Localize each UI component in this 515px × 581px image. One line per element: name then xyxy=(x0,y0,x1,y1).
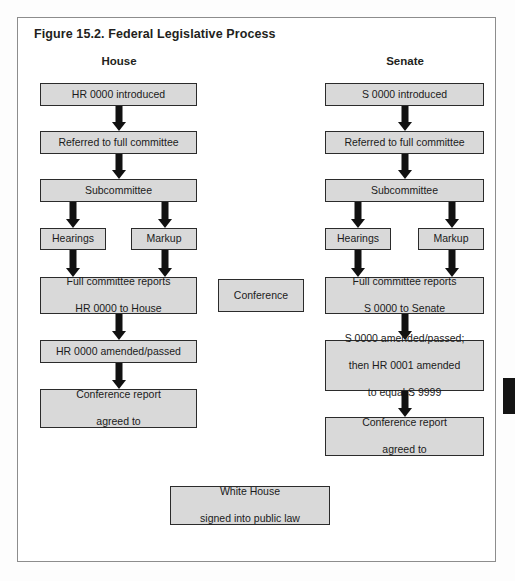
node-house-referred-label: Referred to full committee xyxy=(44,136,193,150)
arrow-senate-subcommittee-to-markup xyxy=(444,202,460,228)
arrow-senate-amended-to-conference-report xyxy=(397,391,413,417)
node-white-house-line1: White House xyxy=(174,485,326,499)
node-senate-markup[interactable]: Markup xyxy=(418,228,484,250)
node-house-referred[interactable]: Referred to full committee xyxy=(40,131,197,154)
node-house-full-committee-reports-line1: Full committee reports xyxy=(44,275,193,289)
arrow-house-introduced-to-referred xyxy=(111,106,127,131)
node-senate-subcommittee[interactable]: Subcommittee xyxy=(325,179,484,202)
arrow-senate-referred-to-subcommittee xyxy=(397,154,413,179)
arrow-house-amended-to-conference-report xyxy=(111,363,127,389)
node-conference-label: Conference xyxy=(222,289,300,303)
arrow-senate-markup-to-full-committee xyxy=(444,250,460,277)
node-house-subcommittee-label: Subcommittee xyxy=(44,184,193,198)
node-senate-hearings-label: Hearings xyxy=(329,232,387,246)
node-senate-amended-passed-line1: S 0000 amended/passed; xyxy=(329,332,480,346)
node-house-subcommittee[interactable]: Subcommittee xyxy=(40,179,197,202)
node-house-amended-passed[interactable]: HR 0000 amended/passed xyxy=(40,340,197,363)
node-senate-introduced[interactable]: S 0000 introduced xyxy=(325,83,484,106)
arrow-house-hearings-to-full-committee xyxy=(65,250,81,277)
node-white-house-line2: signed into public law xyxy=(174,512,326,526)
node-senate-referred[interactable]: Referred to full committee xyxy=(325,131,484,154)
node-house-hearings-label: Hearings xyxy=(44,232,102,246)
figure-container: Figure 15.2. Federal Legislative Process… xyxy=(0,0,515,581)
node-house-conference-report[interactable]: Conference report agreed to xyxy=(40,389,197,428)
node-senate-conference-report-line2: agreed to xyxy=(329,443,480,457)
figure-title: Figure 15.2. Federal Legislative Process xyxy=(34,27,276,41)
node-senate-full-committee-reports[interactable]: Full committee reports S 0000 to Senate xyxy=(325,277,484,314)
page-edge-artifact xyxy=(503,378,515,414)
node-house-markup-label: Markup xyxy=(135,232,193,246)
arrow-house-subcommittee-to-markup xyxy=(157,202,173,228)
arrow-senate-subcommittee-to-hearings xyxy=(350,202,366,228)
column-heading-senate: Senate xyxy=(324,55,486,67)
node-house-full-committee-reports[interactable]: Full committee reports HR 0000 to House xyxy=(40,277,197,314)
node-house-markup[interactable]: Markup xyxy=(131,228,197,250)
column-heading-house: House xyxy=(38,55,200,67)
node-senate-hearings[interactable]: Hearings xyxy=(325,228,391,250)
node-senate-introduced-label: S 0000 introduced xyxy=(329,88,480,102)
node-senate-full-committee-reports-line1: Full committee reports xyxy=(329,275,480,289)
node-house-amended-passed-label: HR 0000 amended/passed xyxy=(44,345,193,359)
arrow-senate-introduced-to-referred xyxy=(397,106,413,131)
node-house-hearings[interactable]: Hearings xyxy=(40,228,106,250)
node-house-conference-report-line1: Conference report xyxy=(44,388,193,402)
node-house-introduced-label: HR 0000 introduced xyxy=(44,88,193,102)
node-senate-conference-report[interactable]: Conference report agreed to xyxy=(325,417,484,456)
arrow-house-markup-to-full-committee xyxy=(157,250,173,277)
arrow-house-referred-to-subcommittee xyxy=(111,154,127,179)
node-senate-amended-passed-line2: then HR 0001 amended xyxy=(329,359,480,373)
arrow-house-subcommittee-to-hearings xyxy=(65,202,81,228)
arrow-house-full-committee-to-amended xyxy=(111,314,127,340)
node-senate-amended-passed[interactable]: S 0000 amended/passed; then HR 0001 amen… xyxy=(325,340,484,391)
node-house-introduced[interactable]: HR 0000 introduced xyxy=(40,83,197,106)
node-senate-referred-label: Referred to full committee xyxy=(329,136,480,150)
node-conference[interactable]: Conference xyxy=(218,279,304,312)
node-senate-conference-report-line1: Conference report xyxy=(329,416,480,430)
node-house-conference-report-line2: agreed to xyxy=(44,415,193,429)
arrow-senate-hearings-to-full-committee xyxy=(350,250,366,277)
node-white-house[interactable]: White House signed into public law xyxy=(170,486,330,525)
node-senate-markup-label: Markup xyxy=(422,232,480,246)
node-senate-subcommittee-label: Subcommittee xyxy=(329,184,480,198)
